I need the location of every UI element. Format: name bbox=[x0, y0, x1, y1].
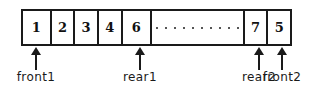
arrow-up-icon bbox=[254, 47, 264, 55]
array-cell: 6 bbox=[123, 11, 153, 44]
queue-array-diagram: 1234675 front1rear1rear2front2 bbox=[0, 0, 330, 92]
array-cell-value: 7 bbox=[251, 21, 260, 34]
arrow-shaft bbox=[258, 53, 260, 70]
array-cell: 7 bbox=[245, 11, 269, 44]
array-container: 1234675 bbox=[21, 9, 292, 46]
ellipsis-dots-icon bbox=[156, 27, 242, 29]
array-cell-value: 5 bbox=[275, 21, 284, 34]
arrow-up-icon bbox=[135, 47, 145, 55]
array-cell: 4 bbox=[99, 11, 123, 44]
array-cell-value: 6 bbox=[132, 21, 141, 34]
pointer-label: front1 bbox=[17, 70, 56, 84]
array-cell-value: 2 bbox=[58, 21, 67, 34]
pointer-label: rear1 bbox=[123, 70, 157, 84]
arrow-up-icon bbox=[31, 47, 41, 55]
array-cell-gap bbox=[152, 11, 245, 44]
arrow-shaft bbox=[35, 53, 37, 70]
array-cell-value: 3 bbox=[82, 21, 91, 34]
arrow-up-icon bbox=[277, 47, 287, 55]
arrow-shaft bbox=[281, 53, 283, 70]
pointer-label: front2 bbox=[263, 70, 302, 84]
array-cell: 5 bbox=[268, 11, 290, 44]
arrow-shaft bbox=[139, 53, 141, 70]
array-cell-value: 4 bbox=[105, 21, 114, 34]
array-cell: 2 bbox=[52, 11, 76, 44]
array-cell: 1 bbox=[23, 11, 52, 44]
array-cell-value: 1 bbox=[32, 21, 41, 34]
array-cell: 3 bbox=[75, 11, 99, 44]
